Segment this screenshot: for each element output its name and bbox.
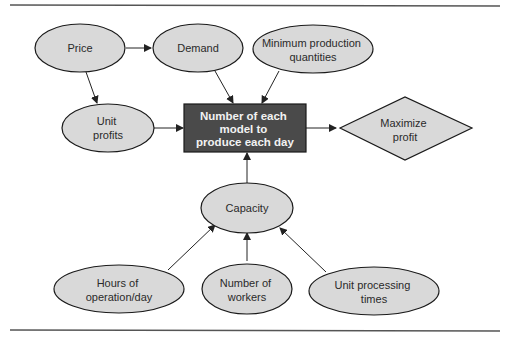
edge-minprod-decision	[262, 71, 279, 103]
svg-text:Price: Price	[67, 42, 92, 54]
node-workers: Number of workers	[202, 264, 292, 314]
node-min-production-label-2: quantities	[289, 51, 337, 63]
node-demand: Demand	[153, 24, 243, 72]
node-hours-label-2: operation/day	[86, 291, 153, 303]
node-decision: Number of each model to produce each day	[184, 104, 306, 152]
node-objective-label-2: profit	[393, 131, 417, 143]
node-unit-profits-label-2: profits	[93, 129, 123, 141]
influence-diagram: Price Demand Minimum production quantiti…	[0, 0, 507, 339]
node-min-production-label-1: Minimum production	[262, 37, 361, 49]
node-objective-label-1: Maximize	[380, 117, 426, 129]
svg-text:Demand: Demand	[177, 42, 219, 54]
edge-demand-decision	[215, 71, 233, 103]
svg-text:Capacity: Capacity	[226, 202, 269, 214]
node-workers-label-1: Number of	[220, 277, 272, 289]
node-processing: Unit processing times	[309, 267, 439, 315]
node-price: Price	[35, 24, 125, 72]
node-hours-label-1: Hours of	[97, 277, 140, 289]
node-demand-label: Demand	[177, 42, 219, 54]
edge-price-unit-profits	[86, 72, 97, 103]
node-price-label: Price	[67, 42, 92, 54]
node-capacity: Capacity	[201, 183, 293, 233]
node-hours: Hours of operation/day	[54, 265, 184, 313]
node-workers-label-2: workers	[227, 291, 267, 303]
node-decision-label-3: produce each day	[196, 136, 294, 148]
node-objective: Maximize profit	[340, 97, 472, 160]
node-decision-label-1: Number of each	[200, 110, 287, 122]
node-processing-label-1: Unit processing	[335, 279, 411, 291]
edges	[86, 48, 336, 272]
node-unit-profits-label-1: Unit	[97, 115, 117, 127]
node-min-production: Minimum production quantities	[253, 25, 373, 73]
top-rule	[10, 5, 500, 6]
node-processing-label-2: times	[361, 293, 388, 305]
node-decision-label-2: model to	[219, 123, 267, 135]
bottom-rule	[10, 330, 500, 331]
edge-processing-capacity	[280, 228, 326, 272]
node-capacity-label: Capacity	[226, 202, 269, 214]
edge-hours-capacity	[168, 225, 215, 270]
node-unit-profits: Unit profits	[62, 104, 154, 152]
